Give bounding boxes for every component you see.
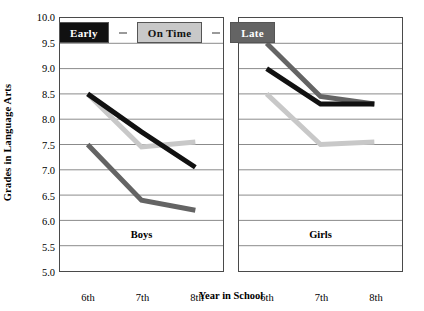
- data-line-on-time: [88, 94, 196, 147]
- y-tick-label: 7.5: [42, 139, 55, 150]
- y-tick-label: 6.0: [42, 216, 55, 227]
- chart-container: Grades in Language Arts 5.05.56.06.57.07…: [0, 0, 424, 311]
- legend-connector: [212, 32, 220, 34]
- x-axis-title: Year in School: [59, 290, 403, 301]
- y-axis-title-text: Grades in Language Arts: [3, 84, 14, 202]
- y-tick-label: 8.5: [42, 88, 55, 99]
- legend-item-on-time: On Time: [137, 22, 203, 43]
- y-tick-label: 9.0: [42, 63, 55, 74]
- y-tick-label: 7.0: [42, 165, 55, 176]
- legend-connector: [119, 32, 127, 34]
- data-line-late: [267, 43, 375, 104]
- y-tick-label: 5.0: [42, 267, 55, 278]
- y-tick-label: 6.5: [42, 190, 55, 201]
- legend-item-late: Late: [230, 22, 275, 43]
- y-tick-label: 5.5: [42, 241, 55, 252]
- y-axis-tick-labels: 5.05.56.06.57.07.58.08.59.09.510.0: [16, 0, 58, 311]
- y-tick-label: 8.0: [42, 114, 55, 125]
- legend: EarlyOn TimeLate: [59, 22, 275, 43]
- data-line-early: [88, 94, 196, 167]
- y-tick-label: 9.5: [42, 37, 55, 48]
- panel-girls: Girls 6th7th8th: [238, 17, 403, 272]
- panel-girls-label: Girls: [239, 229, 402, 240]
- legend-item-early: Early: [59, 22, 109, 43]
- panel-boys-label: Boys: [60, 229, 223, 240]
- y-axis-title: Grades in Language Arts: [0, 0, 16, 285]
- y-tick-label: 10.0: [37, 12, 55, 23]
- panel-boys: Boys 6th7th8th: [59, 17, 224, 272]
